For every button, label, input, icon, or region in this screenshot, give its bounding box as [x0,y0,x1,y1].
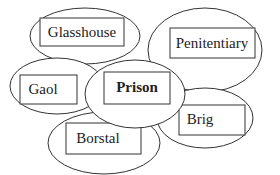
node-prison: Prison [85,60,185,128]
borstal-label: Borstal [76,130,119,146]
brig-label: Brig [187,111,214,127]
gaol-label: Gaol [28,81,57,97]
penitentiary-label: Penitentiary [176,35,249,51]
synonym-diagram: Penitentiary Glasshouse Brig Borstal Gao… [0,0,280,175]
node-glasshouse: Glasshouse [30,8,140,64]
glasshouse-label: Glasshouse [48,24,117,40]
prison-label: Prison [116,79,158,95]
